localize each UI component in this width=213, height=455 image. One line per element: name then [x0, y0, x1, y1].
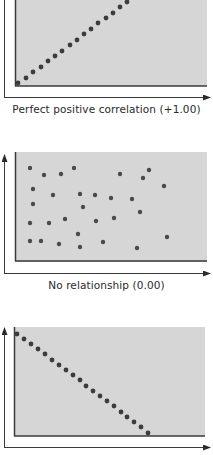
plot-area	[15, 152, 207, 262]
data-point	[31, 70, 36, 75]
data-point	[138, 210, 142, 214]
data-point	[39, 65, 44, 70]
data-point	[16, 81, 21, 86]
data-point	[63, 217, 67, 221]
data-point	[51, 193, 55, 197]
panel-positive-correlation	[4, 0, 210, 98]
data-point	[135, 246, 139, 250]
data-point	[31, 187, 35, 191]
data-point	[111, 11, 116, 16]
data-point	[72, 166, 76, 170]
correlation-diagram	[0, 0, 213, 455]
caption-no-relationship: No relationship (0.00)	[0, 279, 213, 291]
data-point	[141, 176, 145, 180]
panel-negative-correlation	[4, 327, 210, 448]
data-point	[59, 172, 63, 176]
data-point	[96, 21, 101, 26]
data-point	[78, 192, 82, 196]
data-point	[31, 202, 35, 206]
data-point	[42, 173, 46, 177]
data-point	[46, 59, 51, 64]
data-point	[71, 373, 76, 378]
data-point	[28, 239, 32, 243]
data-point	[43, 352, 48, 357]
data-point	[82, 32, 87, 37]
data-point	[132, 420, 137, 425]
data-point	[57, 363, 62, 368]
data-point	[162, 184, 166, 188]
data-point	[47, 221, 51, 225]
data-point	[93, 193, 97, 197]
plot-area	[14, 327, 205, 436]
data-point	[89, 27, 94, 32]
data-point	[24, 76, 29, 81]
caption-positive-correlation: Perfect positive correlation (+1.00)	[0, 103, 213, 115]
data-point	[118, 5, 123, 10]
data-point	[76, 232, 80, 236]
data-point	[104, 16, 109, 21]
data-point	[78, 245, 82, 249]
data-point	[60, 49, 65, 54]
data-point	[101, 240, 105, 244]
panel-no-relationship	[4, 152, 210, 274]
data-point	[105, 399, 110, 404]
data-point	[57, 242, 61, 246]
data-point	[112, 216, 116, 220]
data-point	[78, 378, 83, 383]
data-point	[15, 332, 20, 337]
data-point	[147, 168, 151, 172]
data-point	[50, 358, 55, 363]
data-point	[22, 337, 27, 342]
data-point	[28, 221, 32, 225]
data-point	[81, 205, 85, 209]
data-point	[53, 54, 58, 59]
data-point	[64, 368, 69, 373]
data-point	[94, 219, 98, 223]
data-point	[165, 235, 169, 239]
data-point	[146, 431, 151, 436]
data-point	[109, 196, 113, 200]
data-point	[68, 43, 73, 48]
data-point	[118, 172, 122, 176]
data-point	[91, 389, 96, 394]
data-point	[29, 342, 34, 347]
data-point	[28, 166, 32, 170]
data-point	[75, 38, 80, 43]
data-point	[98, 394, 103, 399]
data-point	[36, 347, 41, 352]
data-point	[130, 197, 134, 201]
data-point	[139, 425, 144, 430]
data-point	[125, 415, 130, 420]
data-point	[39, 239, 43, 243]
data-point	[119, 410, 124, 415]
data-point	[112, 404, 117, 409]
data-point	[84, 384, 89, 389]
